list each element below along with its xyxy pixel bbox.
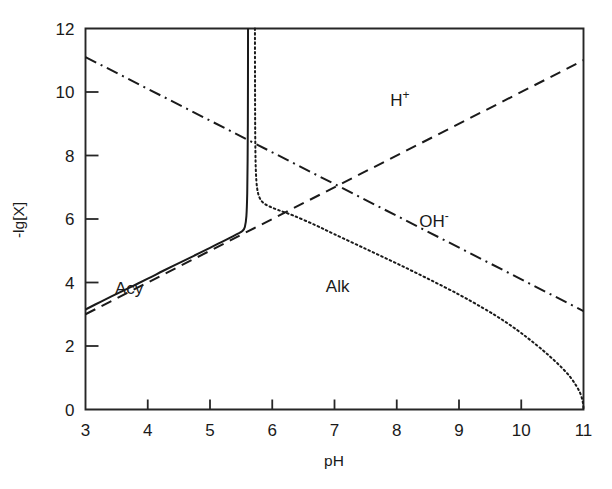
charge-superscript: - <box>445 209 449 223</box>
series-label-oh: OH- <box>419 209 449 231</box>
chart-figure: 34567891011 024681012 AcyAlkH+OH- pH -lg… <box>0 0 612 489</box>
x-tick-label: 4 <box>143 421 152 440</box>
series-label-acy: Acy <box>115 279 144 298</box>
y-tick-label: 12 <box>56 20 75 39</box>
chart-canvas: 34567891011 024681012 AcyAlkH+OH- pH -lg… <box>0 0 612 489</box>
x-tick-label: 9 <box>454 421 463 440</box>
x-tick-label: 8 <box>392 421 401 440</box>
y-tick-label: 4 <box>65 274 74 293</box>
series-label-alk: Alk <box>326 277 350 296</box>
x-tick-label: 6 <box>268 421 277 440</box>
x-tick-label: 11 <box>575 421 593 440</box>
x-tick-label: 7 <box>330 421 339 440</box>
x-tick-label: 10 <box>512 421 531 440</box>
y-tick-label: 2 <box>65 337 74 356</box>
y-tick-label: 6 <box>65 210 74 229</box>
x-tick-label: 3 <box>81 421 90 440</box>
y-tick-label: 10 <box>56 83 75 102</box>
charge-superscript: + <box>402 88 409 102</box>
y-tick-label: 0 <box>65 401 74 420</box>
x-axis-title: pH <box>324 452 344 469</box>
chart-background <box>0 0 612 489</box>
x-tick-label: 5 <box>205 421 214 440</box>
y-axis-title: -lg[X] <box>10 202 27 238</box>
y-tick-label: 8 <box>65 147 74 166</box>
